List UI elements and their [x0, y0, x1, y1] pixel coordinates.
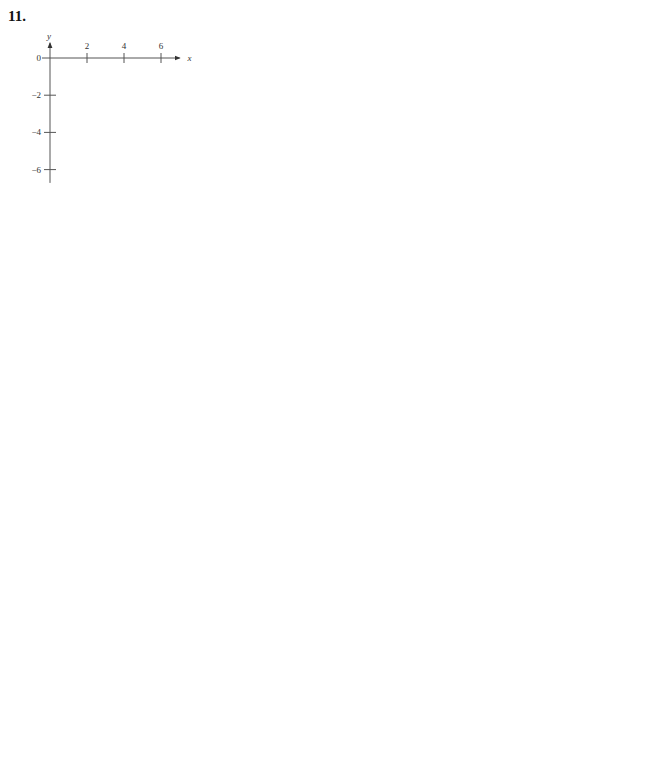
y-tick-label: 0: [37, 53, 42, 63]
x-tick-label: 2: [85, 41, 90, 51]
x-tick-label: 6: [159, 41, 164, 51]
y-tick-label: −6: [31, 165, 41, 175]
y-axis-label: y: [46, 31, 51, 41]
problem-number-label: 11.: [8, 8, 26, 25]
y-tick-label: −2: [31, 90, 41, 100]
graphs-canvas: xy2460−2−4−6: [0, 0, 661, 780]
x-tick-label: 4: [122, 41, 127, 51]
graph-p11: xy2460−2−4−6: [31, 31, 191, 183]
y-tick-label: −4: [31, 127, 41, 137]
x-axis-label: x: [187, 53, 192, 63]
